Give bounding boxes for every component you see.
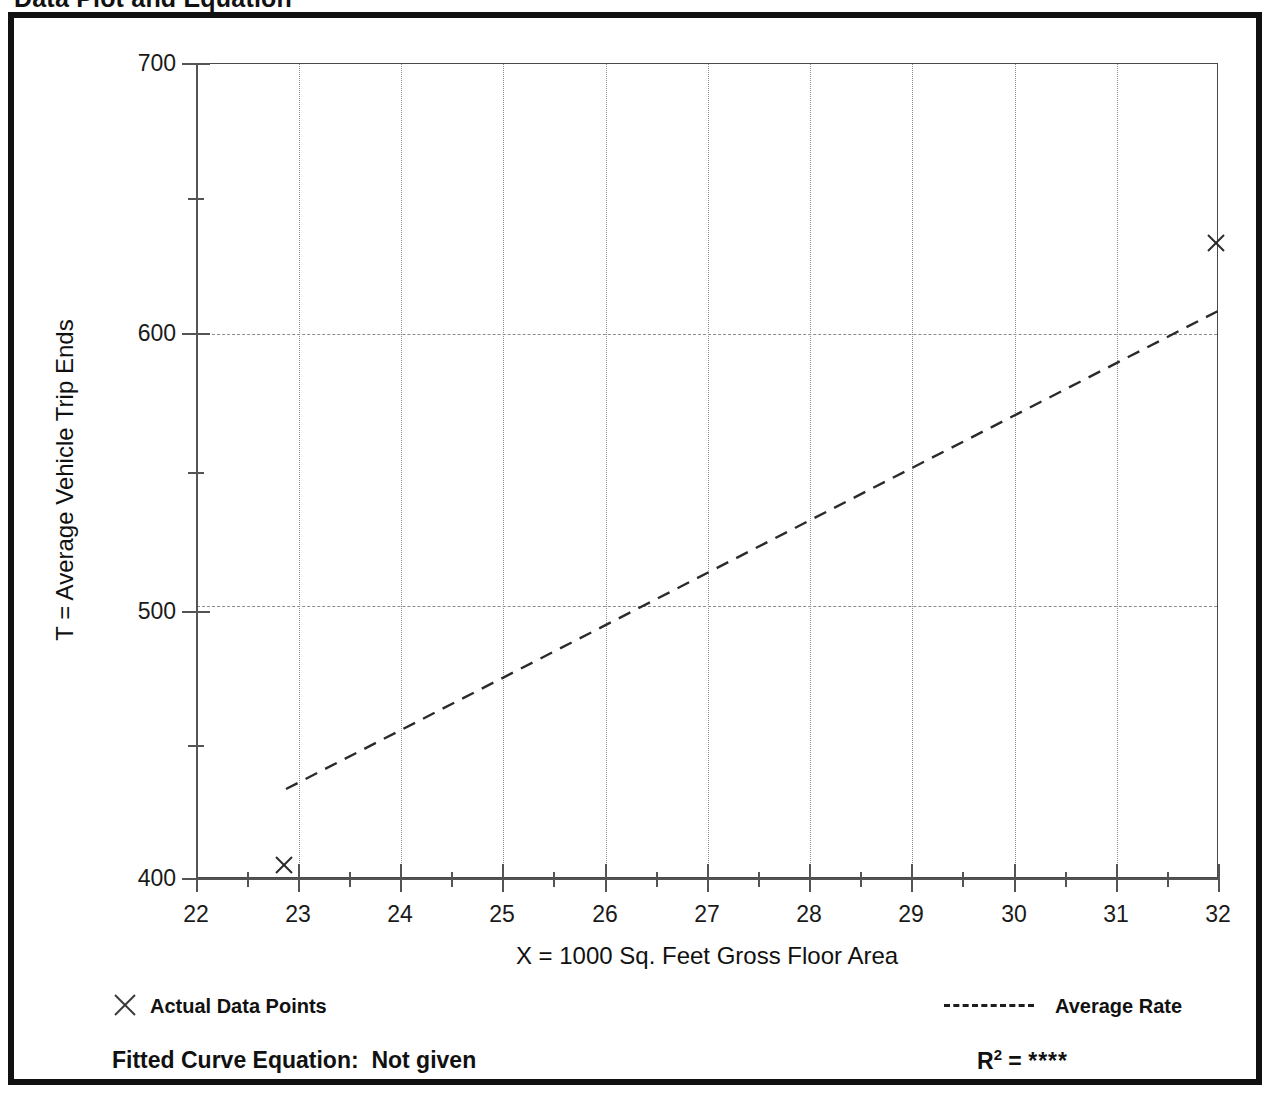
gridline-horizontal xyxy=(197,334,1217,335)
x-axis-tick-minor xyxy=(247,872,249,887)
x-axis-tick xyxy=(809,864,811,892)
chart-figure: 700 600 500 400 22 23 24 25 26 27 28 29 … xyxy=(0,0,1274,1097)
x-axis-tick-minor xyxy=(758,872,760,887)
y-axis-tick-minor xyxy=(188,745,204,747)
legend-x-marker-icon xyxy=(112,992,138,1018)
equation-label: Fitted Curve Equation: xyxy=(112,1047,359,1073)
x-axis-tick-minor xyxy=(860,872,862,887)
gridline-vertical xyxy=(606,64,607,877)
legend-label-actual-data-points: Actual Data Points xyxy=(150,995,327,1018)
gridline-vertical xyxy=(1117,64,1118,877)
y-axis-tick xyxy=(182,333,210,335)
x-axis-tick-minor xyxy=(1065,872,1067,887)
x-axis-tick-minor xyxy=(962,872,964,887)
x-axis-tick-minor xyxy=(451,872,453,887)
x-axis-title: X = 1000 Sq. Feet Gross Floor Area xyxy=(196,942,1218,970)
gridline-vertical xyxy=(912,64,913,877)
y-axis-tick-minor xyxy=(188,472,204,474)
x-axis-tick-label: 29 xyxy=(871,903,951,926)
x-axis-tick xyxy=(605,864,607,892)
x-axis-tick-label: 23 xyxy=(258,903,338,926)
data-point-marker xyxy=(273,854,295,876)
x-axis-tick-minor xyxy=(553,872,555,887)
r-squared-equals: = xyxy=(1008,1048,1021,1074)
fitted-curve-equation: Fitted Curve Equation: Not given xyxy=(112,1047,476,1074)
x-axis-tick-minor xyxy=(1167,872,1169,887)
x-axis-tick-minor xyxy=(656,872,658,887)
x-axis-tick-label: 27 xyxy=(667,903,747,926)
equation-value: Not given xyxy=(371,1047,476,1073)
x-axis-tick-label: 28 xyxy=(769,903,849,926)
y-axis-line xyxy=(196,63,198,879)
y-axis-tick-label: 400 xyxy=(56,867,176,890)
gridline-vertical xyxy=(708,64,709,877)
r-squared-value: **** xyxy=(1028,1048,1068,1074)
y-axis-tick-minor xyxy=(188,198,204,200)
x-axis-tick-label: 24 xyxy=(360,903,440,926)
gridline-vertical xyxy=(810,64,811,877)
gridline-vertical xyxy=(1015,64,1016,877)
y-axis-tick xyxy=(182,611,210,613)
x-axis-tick xyxy=(502,864,504,892)
gridline-vertical xyxy=(299,64,300,877)
x-axis-tick xyxy=(1116,864,1118,892)
gridline-vertical xyxy=(401,64,402,877)
x-axis-tick xyxy=(1014,864,1016,892)
x-axis-tick-label: 25 xyxy=(462,903,542,926)
x-axis-tick xyxy=(1218,864,1220,892)
y-axis-tick-label: 700 xyxy=(56,52,176,75)
y-axis-title: T = Average Vehicle Trip Ends xyxy=(51,200,79,760)
x-axis-tick-label: 30 xyxy=(974,903,1054,926)
x-axis-tick-label: 26 xyxy=(565,903,645,926)
r-squared-exponent: 2 xyxy=(994,1046,1002,1063)
r-squared-label: R xyxy=(977,1048,994,1074)
x-axis-tick xyxy=(911,864,913,892)
x-axis-tick xyxy=(196,864,198,892)
x-axis-tick-label: 32 xyxy=(1178,903,1258,926)
x-axis-tick-label: 31 xyxy=(1076,903,1156,926)
x-axis-tick-minor xyxy=(349,872,351,887)
r-squared-annotation: R2 = **** xyxy=(977,1046,1068,1075)
legend-label-average-rate: Average Rate xyxy=(1055,995,1182,1018)
y-axis-tick xyxy=(182,63,210,65)
data-point-marker xyxy=(1205,232,1227,254)
gridline-vertical xyxy=(503,64,504,877)
x-axis-tick xyxy=(707,864,709,892)
x-axis-tick xyxy=(298,864,300,892)
x-axis-tick-label: 22 xyxy=(156,903,236,926)
x-axis-tick xyxy=(400,864,402,892)
plot-area xyxy=(196,63,1218,878)
gridline-horizontal xyxy=(197,606,1217,607)
legend-dashed-line-icon xyxy=(944,1004,1034,1007)
